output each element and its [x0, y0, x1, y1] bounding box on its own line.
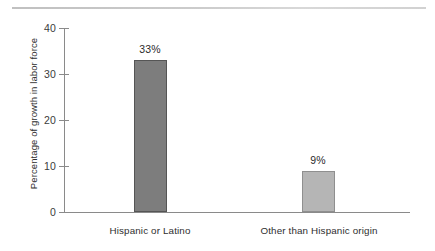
bar-fill — [134, 60, 167, 212]
bar-fill — [302, 171, 335, 212]
x-category-label-hispanic-or-latino: Hispanic or Latino — [70, 225, 230, 236]
y-tick-mark-10 — [59, 166, 69, 167]
x-category-label-other-than-hispanic-origin: Other than Hispanic origin — [239, 225, 399, 236]
y-tick-label-10: 10 — [16, 161, 56, 172]
y-tick-mark-20 — [59, 120, 69, 121]
x-axis-line — [64, 212, 410, 213]
y-tick-label-30: 30 — [16, 69, 56, 80]
y-tick-mark-30 — [59, 74, 69, 75]
header-divider-rule — [12, 7, 426, 9]
bar-other-than-hispanic-origin — [302, 171, 335, 212]
y-axis-title: Percentage of growth in labor force — [28, 19, 39, 209]
bar-value-label-other-than-hispanic-origin: 9% — [288, 155, 348, 166]
y-tick-mark-40 — [59, 28, 69, 29]
y-tick-mark-0 — [59, 212, 69, 213]
bar-value-label-hispanic-or-latino: 33% — [120, 44, 180, 55]
bar-hispanic-or-latino — [134, 60, 167, 212]
y-tick-label-20: 20 — [16, 115, 56, 126]
bar-chart-figure: Percentage of growth in labor force 40 3… — [0, 0, 435, 251]
y-tick-label-40: 40 — [16, 23, 56, 34]
y-tick-label-0: 0 — [16, 207, 56, 218]
